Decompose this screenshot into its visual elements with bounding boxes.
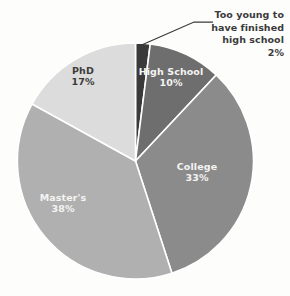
pie-callout-too-young-line-3: high school: [180, 34, 284, 47]
pie-callout-too-young: Too young to have finished high school 2…: [180, 9, 284, 59]
pie-callout-too-young-value: 2%: [180, 47, 284, 60]
pie-callout-too-young-line-2: have finished: [180, 22, 284, 35]
pie-chart: High School 10% College 33% Master's 38%…: [0, 0, 290, 296]
pie-callout-too-young-line-1: Too young to: [180, 9, 284, 22]
pie-slices: [17, 43, 253, 279]
